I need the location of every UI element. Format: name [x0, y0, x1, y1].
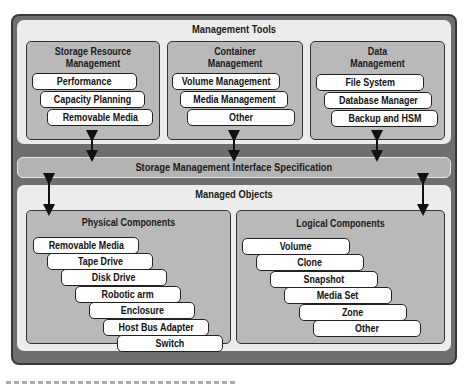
connector-arrows — [0, 0, 468, 384]
figure-caption-clipped — [0, 378, 468, 384]
